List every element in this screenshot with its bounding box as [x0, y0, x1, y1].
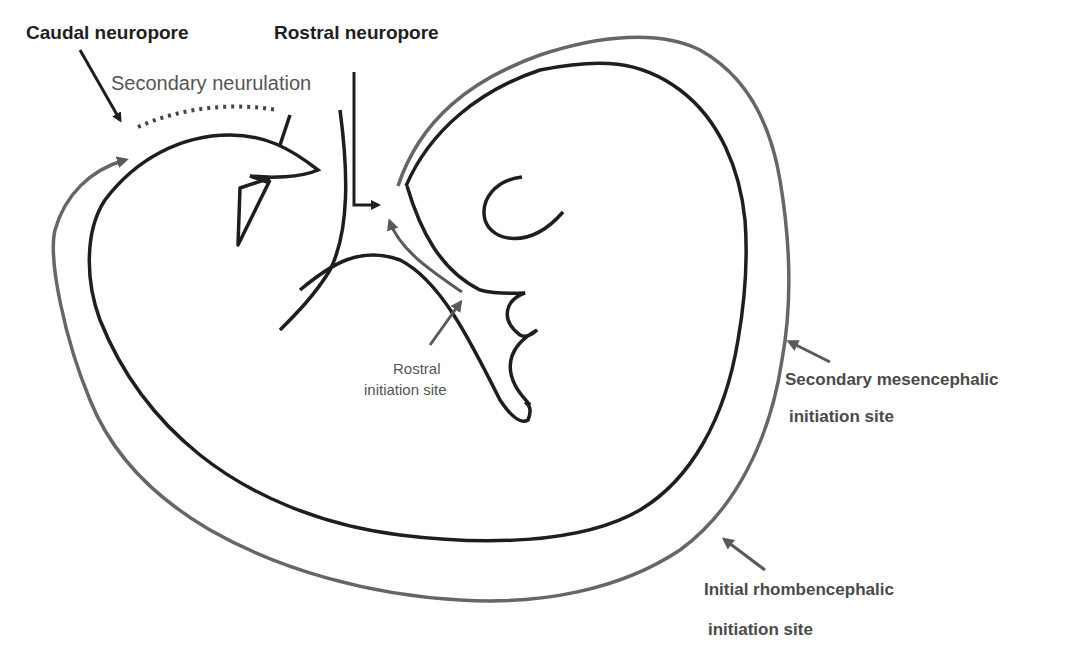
rostral-neuropore-arrow: [354, 72, 378, 205]
left-vessel-line: [280, 110, 346, 330]
rostral-initiation-label-line1: Rostral: [393, 360, 441, 377]
rhombencephalic-label-line2: initiation site: [708, 620, 813, 640]
rostral-initiation-label-line2: initiation site: [364, 381, 447, 398]
mesencephalic-label-line2: initiation site: [789, 407, 894, 427]
secondary-neurulation-label: Secondary neurulation: [111, 72, 311, 95]
caudal-neuropore-label: Caudal neuropore: [26, 22, 189, 44]
outer-closure-wave: [53, 37, 789, 601]
mesencephalic-label-line1: Secondary mesencephalic: [785, 370, 999, 390]
mesencephalic-pointer: [790, 342, 830, 362]
rhombencephalic-label-line1: Initial rhombencephalic: [704, 580, 894, 600]
tail-tick: [280, 115, 290, 145]
secondary-neurulation-dots: [138, 107, 277, 127]
neural-tube-outline: [89, 63, 746, 541]
rostral-initiation-pointer: [430, 303, 460, 345]
rhombencephalic-pointer: [725, 540, 765, 570]
rostral-neuropore-label: Rostral neuropore: [274, 22, 439, 44]
embryo-diagram: [0, 0, 1072, 669]
optic-cup: [484, 177, 563, 239]
tail-bud: [238, 178, 270, 245]
